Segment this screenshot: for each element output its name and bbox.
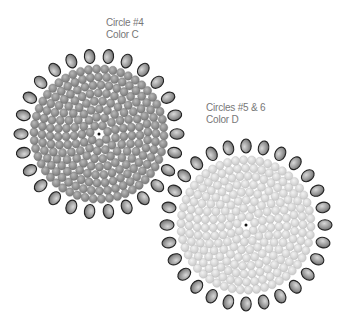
seed-bead	[89, 194, 97, 203]
seed-bead	[102, 89, 110, 98]
seed-bead	[181, 243, 189, 252]
seed-bead	[211, 231, 219, 240]
center-dot	[245, 224, 248, 227]
seed-bead	[144, 128, 152, 137]
seed-bead	[258, 216, 266, 225]
seed-bead	[234, 277, 242, 286]
seed-bead	[34, 152, 42, 161]
drop-bead	[15, 109, 31, 122]
seed-bead	[95, 163, 103, 172]
drop-bead	[188, 155, 205, 172]
drop-bead	[84, 49, 96, 64]
seed-bead	[244, 172, 252, 181]
seed-bead	[99, 97, 107, 106]
drop-bead	[161, 201, 177, 214]
seed-bead	[117, 68, 125, 77]
seed-bead	[247, 261, 255, 270]
seed-bead	[297, 236, 305, 245]
seed-bead	[251, 218, 259, 227]
seed-bead	[135, 123, 143, 132]
seed-bead	[95, 187, 103, 196]
seed-bead	[233, 181, 241, 190]
seed-bead	[30, 136, 38, 145]
seed-bead	[298, 228, 306, 237]
circle-4-label: Circle #4 Color C	[106, 17, 144, 41]
drop-bead	[167, 146, 183, 159]
drop-bead	[299, 167, 316, 184]
seed-bead	[62, 124, 70, 133]
seed-bead	[160, 123, 168, 132]
seed-bead	[199, 184, 207, 193]
seed-bead	[127, 123, 135, 132]
seed-bead	[240, 270, 248, 279]
seed-bead	[116, 174, 124, 183]
seed-bead	[31, 120, 39, 129]
seed-bead	[230, 260, 238, 269]
center-dot	[98, 133, 101, 136]
seed-bead	[266, 272, 274, 281]
seed-bead	[110, 92, 118, 101]
seed-bead	[250, 164, 258, 173]
drop-bead	[14, 129, 28, 139]
seed-bead	[304, 239, 312, 248]
drop-bead	[21, 90, 38, 106]
seed-bead	[235, 227, 243, 236]
circle-5-6-beads	[160, 139, 332, 311]
seed-bead	[94, 89, 102, 98]
drop-bead	[135, 189, 152, 206]
circle-5-6-label: Circles #5 & 6 Color D	[206, 102, 265, 126]
seed-bead	[32, 112, 40, 121]
seed-bead	[85, 178, 93, 187]
seed-bead	[72, 139, 80, 148]
seed-bead	[89, 81, 97, 90]
seed-bead	[108, 169, 116, 178]
seed-bead	[296, 204, 304, 213]
seed-bead	[246, 188, 254, 197]
seed-bead	[242, 278, 250, 287]
seed-bead	[239, 262, 247, 271]
drop-bead	[287, 155, 304, 172]
seed-bead	[201, 224, 209, 233]
seed-bead	[241, 164, 249, 173]
seed-bead	[141, 112, 149, 121]
seed-bead	[213, 279, 221, 288]
seed-bead	[263, 265, 271, 274]
seed-bead	[186, 229, 194, 238]
seed-bead	[187, 205, 195, 214]
seed-bead	[79, 185, 87, 194]
seed-bead	[92, 171, 100, 180]
drop-bead	[102, 49, 114, 64]
seed-bead	[55, 141, 63, 150]
drop-bead	[273, 145, 288, 162]
seed-bead	[54, 124, 62, 133]
drop-bead	[167, 109, 183, 122]
circle-5-6-title: Circles #5 & 6	[206, 102, 265, 114]
seed-bead	[305, 206, 313, 215]
seed-bead	[94, 73, 102, 82]
seed-bead	[306, 231, 314, 240]
seed-bead	[158, 115, 166, 124]
drop-bead	[32, 74, 49, 91]
seed-bead	[260, 283, 268, 292]
seed-bead	[76, 67, 84, 76]
seed-bead	[291, 227, 299, 236]
seed-bead	[119, 124, 127, 133]
seed-bead	[273, 268, 281, 277]
seed-bead	[133, 115, 141, 124]
seed-bead	[241, 180, 249, 189]
seed-bead	[282, 230, 290, 239]
seed-bead	[177, 219, 185, 228]
seed-bead	[242, 196, 250, 205]
drop-bead	[241, 297, 251, 311]
diagram-canvas: Circle #4 Color C Circles #5 & 6 Color D	[0, 0, 348, 323]
seed-bead	[242, 230, 250, 239]
seed-bead	[156, 107, 164, 116]
seed-bead	[244, 286, 252, 295]
seed-bead	[226, 276, 234, 285]
seed-bead	[307, 222, 315, 231]
seed-bead	[252, 173, 260, 182]
seed-bead	[125, 115, 133, 124]
seed-bead	[220, 282, 228, 291]
drop-bead	[273, 288, 288, 305]
seed-bead	[62, 132, 70, 141]
